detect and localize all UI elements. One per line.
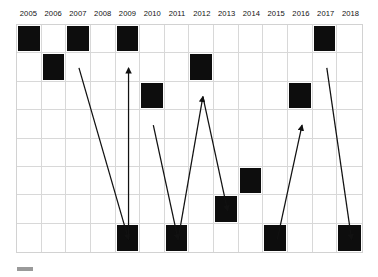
year-label-2017: 2017 [313,6,338,21]
year-label-2008: 2008 [90,6,115,21]
grid-cell-empty [91,25,116,53]
year-label-2006: 2006 [41,6,66,21]
grid-cell-empty [42,224,67,252]
grid-cell-empty [214,53,239,81]
grid-cell-empty [313,139,338,167]
grid-cell-empty [239,53,264,81]
grid-cell-filled [165,224,190,252]
year-axis: 2005200620072008200920102011201220132014… [16,6,363,21]
grid-cell-filled [239,167,264,195]
grid-cell-empty [165,110,190,138]
timeline-grid-chart: 2005200620072008200920102011201220132014… [0,0,378,277]
grid-cell-empty [17,110,42,138]
grid-cell-empty [66,139,91,167]
grid-cell-empty [140,167,165,195]
grid-cell-empty [116,167,141,195]
grid-cell-empty [116,82,141,110]
grid-cell-empty [189,195,214,223]
grid-cell-empty [189,224,214,252]
grid-cell-empty [288,167,313,195]
grid-cell-empty [239,195,264,223]
grid-cell-empty [42,110,67,138]
grid-cell-empty [165,82,190,110]
grid-cell-empty [288,110,313,138]
grid-cell-empty [313,167,338,195]
grid-cell-empty [17,167,42,195]
grid-cell-empty [91,195,116,223]
grid-cell-empty [66,195,91,223]
grid-cell-empty [17,224,42,252]
grid-cell-empty [239,25,264,53]
grid-cell-empty [42,195,67,223]
year-label-2016: 2016 [289,6,314,21]
grid-cell-empty [263,110,288,138]
grid-cell-empty [239,224,264,252]
grid-cell-empty [66,82,91,110]
year-label-2009: 2009 [115,6,140,21]
grid-cell-filled [140,82,165,110]
grid-cell-empty [239,110,264,138]
grid-cell-empty [66,224,91,252]
grid-cell-empty [337,82,362,110]
grid-cell-empty [263,195,288,223]
year-label-2013: 2013 [214,6,239,21]
grid-cell-empty [337,110,362,138]
grid-cell-filled [263,224,288,252]
grid-cell-empty [288,195,313,223]
grid-cell-empty [337,53,362,81]
grid-cell-empty [116,53,141,81]
year-label-2012: 2012 [189,6,214,21]
grid-cell-empty [116,139,141,167]
grid-cell-empty [263,53,288,81]
grid-cell-empty [91,110,116,138]
grid-cell-empty [337,139,362,167]
grid-cell-empty [116,110,141,138]
year-label-2018: 2018 [338,6,363,21]
grid-cell-empty [165,53,190,81]
year-label-2015: 2015 [264,6,289,21]
grid-cell-empty [189,82,214,110]
grid-cell-empty [214,139,239,167]
grid-cell-empty [263,82,288,110]
grid-plot-area [16,24,363,253]
grid-cell-empty [66,110,91,138]
grid-cell-empty [214,110,239,138]
grid-cell-empty [288,224,313,252]
grid-cell-filled [66,25,91,53]
grid-cell-empty [337,25,362,53]
grid-cell-empty [66,167,91,195]
grid-cell-filled [189,53,214,81]
year-label-2014: 2014 [239,6,264,21]
grid-cell-empty [165,139,190,167]
grid-cell-empty [313,82,338,110]
grid-cell-empty [239,82,264,110]
grid-cell-empty [42,82,67,110]
grid-cell-empty [17,53,42,81]
legend-swatch [17,267,33,271]
grid-cell-empty [91,53,116,81]
grid-cell-empty [263,25,288,53]
grid-cell-empty [91,224,116,252]
grid-cell-empty [337,167,362,195]
grid-cells [17,25,362,252]
grid-cell-empty [313,110,338,138]
grid-cell-empty [66,53,91,81]
grid-cell-filled [116,224,141,252]
grid-cell-filled [288,82,313,110]
grid-cell-empty [313,195,338,223]
grid-cell-empty [116,195,141,223]
grid-cell-filled [116,25,141,53]
grid-cell-empty [17,139,42,167]
grid-cell-empty [17,82,42,110]
grid-cell-filled [17,25,42,53]
grid-cell-empty [288,25,313,53]
grid-cell-empty [189,25,214,53]
grid-cell-empty [42,167,67,195]
grid-cell-empty [165,195,190,223]
grid-cell-empty [140,195,165,223]
grid-cell-empty [313,53,338,81]
year-label-2007: 2007 [66,6,91,21]
grid-cell-filled [214,195,239,223]
year-label-2010: 2010 [140,6,165,21]
grid-cell-empty [165,167,190,195]
